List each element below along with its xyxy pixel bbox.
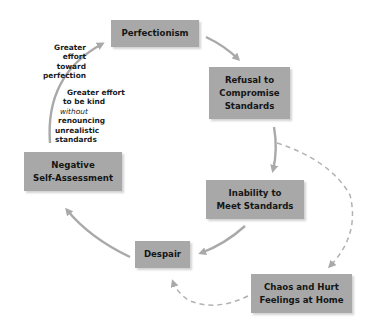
- annotation-kind-line-4: renouncing: [55, 116, 125, 125]
- node-inability-line-2: Meet Standards: [217, 200, 294, 213]
- annotation-perfection-line-3: toward: [20, 62, 86, 71]
- node-inability-line-1: Inability to: [229, 187, 282, 200]
- node-refusal-line-3: Standards: [225, 100, 275, 113]
- node-despair: Despair: [135, 241, 190, 268]
- node-negative-line-2: Self-Assessment: [33, 172, 113, 185]
- annotation-perfection-line-2: effort: [20, 52, 86, 61]
- arrow-despair-to-negative: [67, 210, 130, 257]
- arrow-inability-to-despair: [201, 226, 245, 253]
- annotation-perfection-line-4: perfection: [20, 71, 86, 80]
- arrow-chaos-to-despair-dashed: [173, 282, 248, 305]
- node-negative-line-1: Negative: [51, 159, 94, 172]
- annotation-greater-effort-toward-perfection: Greater effort toward perfection: [20, 43, 86, 81]
- node-perfectionism-label: Perfectionism: [121, 27, 188, 40]
- annotation-perfection-line-1: Greater: [20, 43, 86, 52]
- node-chaos-and-hurt-feelings: Chaos and Hurt Feelings at Home: [251, 274, 352, 313]
- node-chaos-line-2: Feelings at Home: [259, 294, 343, 307]
- node-despair-label: Despair: [144, 248, 181, 261]
- annotation-kind-line-1: Greater effort: [55, 88, 125, 97]
- node-negative-self-assessment: Negative Self-Assessment: [24, 152, 122, 191]
- node-refusal-to-compromise-standards: Refusal to Compromise Standards: [209, 67, 290, 119]
- annotation-kind-line-5: unrealistic: [55, 126, 125, 135]
- node-perfectionism: Perfectionism: [111, 20, 199, 47]
- annotation-kind-line-6: standards: [55, 135, 125, 144]
- arrow-perfectionism-to-refusal: [206, 37, 238, 59]
- node-refusal-line-1: Refusal to: [225, 74, 274, 87]
- annotation-kind-line-2: to be kind: [55, 97, 125, 106]
- arrow-refusal-to-inability: [273, 127, 276, 170]
- annotation-kind-line-3-italic: without: [55, 107, 125, 116]
- annotation-greater-effort-to-be-kind: Greater effort to be kind without renoun…: [55, 88, 125, 144]
- node-inability-to-meet-standards: Inability to Meet Standards: [206, 180, 304, 219]
- node-chaos-line-1: Chaos and Hurt: [264, 281, 339, 294]
- node-refusal-line-2: Compromise: [219, 87, 279, 100]
